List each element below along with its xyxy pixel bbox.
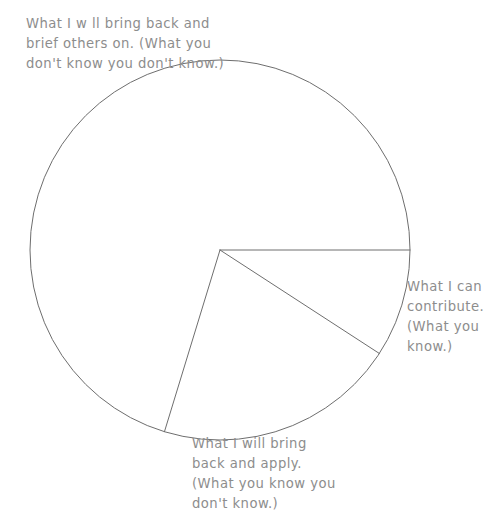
slice-label-known-unknowns: What I will bring back and apply. (What … — [192, 434, 352, 514]
pie-radius-33deg — [220, 250, 379, 353]
diagram-canvas: What I w ll bring back and brief others … — [0, 0, 488, 526]
slice-label-knowns: What I can contribute. (What you know.) — [407, 277, 488, 357]
pie-radius-107deg — [164, 250, 220, 432]
slice-label-unknown-unknowns: What I w ll bring back and brief others … — [26, 14, 236, 74]
